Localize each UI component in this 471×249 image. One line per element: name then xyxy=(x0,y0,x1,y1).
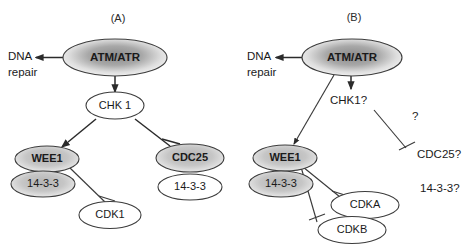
node-cdc25-a-label: CDC25 xyxy=(172,151,208,163)
node-cdk1-a-label: CDK1 xyxy=(95,208,124,220)
edge-atm-to-wee1-b xyxy=(294,75,334,144)
node-chk1-a-label: CHK 1 xyxy=(99,99,131,111)
diagram-canvas: (A) DNA repair ATM/ATR CHK 1 WEE1 xyxy=(0,0,471,249)
node-1433-wee1-b-label: 14-3-3 xyxy=(265,177,297,189)
chk1-text-b: CHK1? xyxy=(330,94,367,106)
edge-wee1-to-cdkb-b-bar xyxy=(309,214,325,220)
edge-chk1-to-wee1-a xyxy=(62,119,96,147)
node-1433-wee1-a-label: 14-3-3 xyxy=(27,177,59,189)
node-1433-cdc25-a-label: 14-3-3 xyxy=(174,180,206,192)
edge-wee1-to-cdk1-a xyxy=(70,168,106,203)
repair-text-b: repair xyxy=(247,66,277,78)
question-mark-b: ? xyxy=(412,110,418,122)
node-cdkb-b-label: CDKB xyxy=(337,223,368,235)
x1433-text-b: 14-3-3? xyxy=(420,182,460,194)
panel-a-label: (A) xyxy=(111,12,126,24)
dna-text-a: DNA xyxy=(8,50,33,62)
node-cdka-b-label: CDKA xyxy=(350,198,381,210)
edge-chk1-to-cdc25-a xyxy=(135,119,170,146)
panel-b: (B) DNA repair ? CHK1? CDC25? 14-3-3? xyxy=(247,11,461,244)
node-atm-atr-b-label: ATM/ATR xyxy=(327,51,378,63)
panel-a: (A) DNA repair ATM/ATR CHK 1 WEE1 xyxy=(8,12,224,229)
node-wee1-a-label: WEE1 xyxy=(31,152,62,164)
diagram-figure: (A) DNA repair ATM/ATR CHK 1 WEE1 xyxy=(0,0,471,249)
node-wee1-b-label: WEE1 xyxy=(269,151,300,163)
cdc25-text-b: CDC25? xyxy=(417,148,461,160)
edge-chk1-to-cdc25-b xyxy=(374,110,406,148)
node-atm-atr-a-label: ATM/ATR xyxy=(90,51,141,63)
panel-b-label: (B) xyxy=(347,11,362,23)
repair-text-a: repair xyxy=(8,66,38,78)
dna-text-b: DNA xyxy=(247,50,272,62)
